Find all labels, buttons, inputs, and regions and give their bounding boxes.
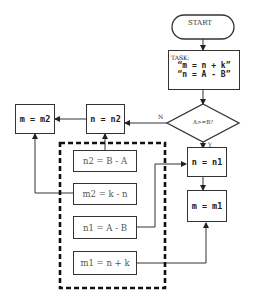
inner-block-m1: m1 = n + k <box>73 251 137 275</box>
m-eq-m1-box: m = m1 <box>187 190 227 222</box>
n-eq-n2-box: n = n2 <box>86 104 125 134</box>
task-box: TASK: “m = n + k” “n = A - B” <box>168 50 240 90</box>
inner-block-n2: n2 = B - A <box>73 150 137 172</box>
n-eq-n1-box: n = n1 <box>187 147 227 177</box>
m-eq-m2-box: m = m2 <box>15 104 55 134</box>
task-line-1: “m = n + k” <box>169 61 239 70</box>
inner-block-m2: m2 = k - n <box>73 183 137 205</box>
task-title: TASK: <box>171 54 239 61</box>
no-branch-label: N <box>158 113 163 120</box>
task-line-2: “n = A - B” <box>169 70 239 79</box>
inner-block-n1: n1 = A - B <box>73 216 137 239</box>
start-label: START <box>188 19 212 27</box>
decision-label: A>=B? <box>193 119 213 125</box>
